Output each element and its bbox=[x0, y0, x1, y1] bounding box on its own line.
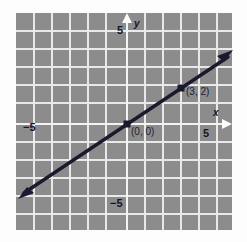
x-axis-name-label: x bbox=[213, 108, 219, 118]
y-axis-name-label: y bbox=[134, 19, 140, 29]
coordinate-plane-svg bbox=[0, 0, 247, 242]
graph-figure: 5 y x 5 −5 −5 (0, 0) (3, 2) bbox=[0, 0, 247, 242]
point-marker-3-2 bbox=[178, 85, 185, 92]
y-tick-label-negative: −5 bbox=[110, 198, 123, 209]
y-tick-label-positive: 5 bbox=[117, 25, 123, 36]
point-marker-origin bbox=[124, 121, 131, 128]
point-label-origin: (0, 0) bbox=[131, 127, 154, 137]
x-tick-label-positive: 5 bbox=[203, 128, 209, 139]
x-tick-label-negative: −5 bbox=[23, 122, 36, 133]
point-label-3-2: (3, 2) bbox=[186, 87, 209, 97]
